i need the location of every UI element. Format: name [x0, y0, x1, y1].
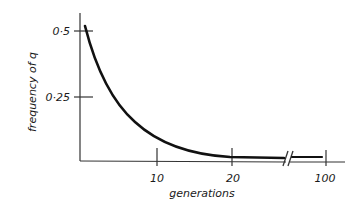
y-tick-label-0-25: 0·25 [46, 91, 71, 104]
x-axis [80, 161, 286, 162]
axis-break-mark [288, 151, 293, 166]
x-tick-label-20: 20 [226, 172, 240, 185]
chart: 0·5 0·25 10 20 100 generations frequency… [0, 0, 361, 206]
x-tick-label-100: 100 [315, 172, 336, 185]
frequency-curve [85, 26, 284, 158]
x-axis-label: generations [169, 187, 235, 200]
x-tick-label-10: 10 [150, 172, 164, 185]
y-axis-label: frequency of q [26, 52, 39, 132]
y-tick-label-0-5: 0·5 [53, 25, 71, 38]
